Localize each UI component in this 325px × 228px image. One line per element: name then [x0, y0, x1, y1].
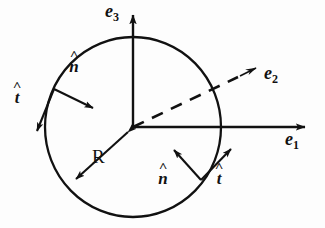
vector-label-n-upper-left: ^ n — [66, 52, 82, 75]
axis-label-e3-base: e — [105, 1, 113, 21]
vector-label-t-lower-right: ^ t — [212, 164, 226, 187]
diagram-svg — [0, 0, 325, 228]
hat-accent-icon: ^ — [153, 164, 173, 171]
figure-canvas: e3 e2 e1 ^ n ^ t ^ n ^ t R — [0, 0, 325, 228]
hat-accent-icon: ^ — [210, 164, 228, 171]
hat-accent-icon: ^ — [8, 83, 26, 90]
vector-n-upper-left — [54, 89, 93, 108]
axis-label-e3: e3 — [105, 2, 119, 23]
axis-e2-line — [133, 77, 238, 127]
vector-label-t-upper-left: ^ t — [10, 83, 24, 106]
axis-label-e3-sub: 3 — [113, 10, 119, 24]
axis-label-e1-sub: 1 — [293, 138, 299, 152]
axis-label-e1: e1 — [285, 130, 299, 151]
axis-label-e2-base: e — [264, 63, 272, 83]
axis-e2-arrow — [240, 68, 256, 76]
axis-label-e1-base: e — [285, 129, 293, 149]
hat-accent-icon: ^ — [64, 52, 84, 59]
radius-label: R — [92, 147, 105, 166]
axis-label-e2-sub: 2 — [272, 72, 278, 86]
axis-label-e2: e2 — [264, 64, 278, 85]
vector-label-n-lower-right: ^ n — [155, 164, 171, 187]
vector-n-lower-right — [174, 150, 201, 180]
